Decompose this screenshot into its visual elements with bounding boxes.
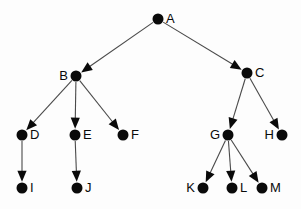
edge-g-to-m	[231, 140, 258, 183]
edge-c-to-h	[250, 78, 279, 129]
node-dot-icon[interactable]	[223, 130, 234, 141]
edge-e-to-j	[72, 141, 81, 182]
node-dot-icon[interactable]	[227, 183, 238, 194]
node-label-m: M	[270, 180, 281, 195]
edge-line	[32, 80, 72, 123]
edge-d-to-i	[17, 141, 26, 182]
node-m[interactable]: M	[257, 180, 281, 195]
tree-diagram: ABCDEFGHIJKLM	[0, 0, 301, 209]
edge-a-to-c	[163, 22, 241, 70]
arrowhead-icon	[17, 171, 26, 182]
node-label-i: I	[30, 180, 34, 195]
edge-line	[75, 82, 76, 120]
node-e[interactable]: E	[70, 127, 93, 142]
edge-line	[80, 81, 114, 123]
arrowhead-icon	[229, 117, 238, 129]
edge-b-to-f	[80, 81, 119, 130]
node-dot-icon[interactable]	[153, 14, 164, 25]
edge-line	[210, 140, 226, 174]
node-label-h: H	[265, 127, 274, 142]
node-label-f: F	[131, 127, 139, 142]
edge-a-to-b	[81, 22, 153, 72]
node-dot-icon[interactable]	[71, 71, 82, 82]
node-dot-icon[interactable]	[70, 130, 81, 141]
node-h[interactable]: H	[265, 127, 288, 142]
node-label-b: B	[59, 68, 68, 83]
arrowhead-icon	[109, 119, 119, 130]
edge-b-to-e	[71, 82, 80, 129]
edge-line	[232, 79, 245, 121]
arrowhead-icon	[81, 62, 93, 72]
node-label-k: K	[186, 180, 195, 195]
edge-line	[228, 141, 230, 173]
nodes-layer: ABCDEFGHIJKLM	[17, 11, 288, 195]
node-a[interactable]: A	[153, 11, 176, 26]
edge-line	[75, 141, 76, 173]
arrowhead-icon	[72, 171, 81, 182]
edge-line	[231, 140, 254, 175]
arrowhead-icon	[226, 170, 235, 181]
node-label-e: E	[83, 127, 92, 142]
node-c[interactable]: C	[242, 65, 265, 80]
node-label-a: A	[166, 11, 175, 26]
node-label-d: D	[30, 127, 39, 142]
edge-c-to-g	[229, 79, 246, 129]
node-dot-icon[interactable]	[17, 130, 28, 141]
edge-line	[89, 22, 154, 67]
edge-g-to-k	[206, 140, 226, 182]
edge-line	[250, 78, 275, 121]
edges-layer	[17, 22, 279, 183]
tree-graph-canvas: ABCDEFGHIJKLM	[0, 0, 301, 209]
node-dot-icon[interactable]	[242, 68, 253, 79]
node-dot-icon[interactable]	[257, 183, 268, 194]
edge-b-to-d	[26, 80, 72, 130]
node-dot-icon[interactable]	[72, 183, 83, 194]
arrowhead-icon	[230, 60, 242, 70]
node-dot-icon[interactable]	[198, 183, 209, 194]
node-label-g: G	[210, 127, 220, 142]
node-label-j: J	[85, 180, 92, 195]
edge-g-to-l	[226, 141, 235, 182]
node-dot-icon[interactable]	[17, 183, 28, 194]
node-b[interactable]: B	[59, 68, 81, 83]
node-g[interactable]: G	[210, 127, 234, 142]
node-dot-icon[interactable]	[277, 130, 288, 141]
node-l[interactable]: L	[227, 180, 248, 195]
edge-line	[163, 22, 234, 65]
node-dot-icon[interactable]	[118, 130, 129, 141]
node-f[interactable]: F	[118, 127, 140, 142]
node-label-l: L	[240, 180, 247, 195]
arrowhead-icon	[71, 118, 80, 129]
arrowhead-icon	[249, 171, 259, 183]
node-label-c: C	[255, 65, 264, 80]
node-j[interactable]: J	[72, 180, 92, 195]
node-i[interactable]: I	[17, 180, 34, 195]
node-k[interactable]: K	[186, 180, 208, 195]
